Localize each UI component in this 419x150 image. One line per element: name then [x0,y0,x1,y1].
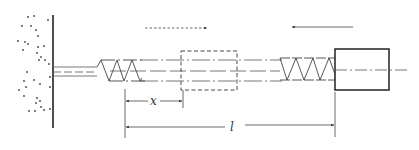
left-spring [97,60,145,81]
dimension-l-label: l [230,120,234,134]
block [335,49,389,90]
spring-mass-diagram: x l [0,0,419,150]
guide-rod [53,67,97,76]
dimension-x-label: x [150,94,157,108]
dashed-block-reference [181,51,237,90]
right-spring [280,58,335,80]
wall-texture-dots [17,15,51,112]
